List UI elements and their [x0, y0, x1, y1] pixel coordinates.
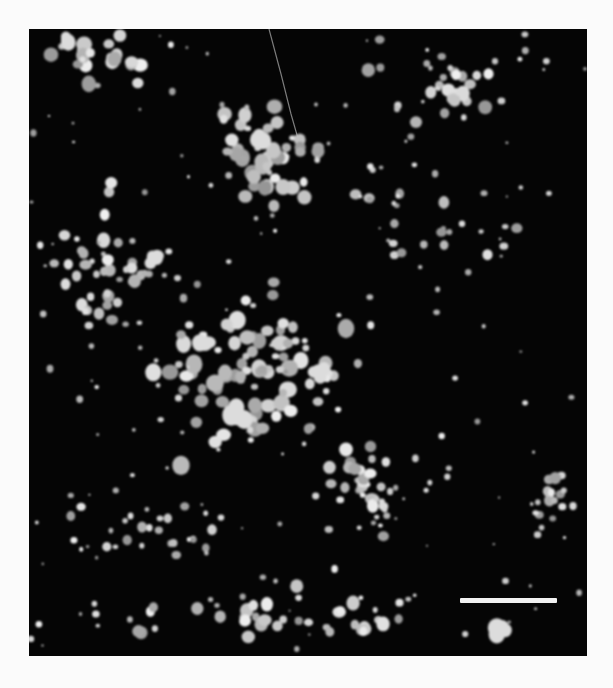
particle [394, 517, 397, 520]
particle [499, 238, 502, 241]
particle [374, 515, 379, 520]
particle [106, 315, 118, 325]
particle [268, 277, 280, 287]
particle [260, 575, 266, 580]
particle [92, 610, 100, 617]
particle [360, 492, 366, 497]
particle [387, 488, 393, 495]
particle [190, 537, 197, 543]
particle [364, 469, 376, 479]
particle [226, 259, 231, 264]
particle [128, 513, 134, 520]
particle [103, 39, 114, 48]
particle [218, 365, 232, 381]
particle [245, 126, 252, 131]
particle [378, 531, 389, 541]
particle [159, 35, 161, 37]
particle [444, 474, 450, 481]
particle [277, 522, 282, 527]
particle [66, 511, 75, 521]
particle [68, 493, 74, 498]
particle [410, 116, 422, 128]
particle [379, 166, 384, 170]
particle [77, 246, 86, 255]
particle [218, 515, 225, 521]
particle [366, 294, 373, 300]
particle [439, 196, 450, 209]
particle [42, 563, 44, 566]
particle [362, 63, 375, 77]
particle [357, 526, 362, 530]
particle [478, 100, 492, 114]
particle [451, 70, 461, 80]
particle [164, 514, 172, 524]
particle [305, 378, 315, 389]
particle [288, 321, 298, 333]
scale-bar [460, 598, 557, 603]
particle [517, 57, 522, 62]
particle [139, 543, 144, 549]
particle [178, 385, 189, 395]
particle [376, 617, 389, 632]
particle [248, 437, 254, 442]
particle [440, 108, 449, 118]
particle [522, 47, 529, 54]
particle [546, 191, 552, 196]
particle [100, 209, 110, 221]
particle [421, 100, 425, 104]
particle [209, 183, 214, 188]
particle [368, 455, 375, 463]
particle [207, 524, 217, 535]
particle [165, 249, 172, 255]
particle [96, 433, 99, 436]
particle [396, 194, 400, 199]
particle [272, 353, 279, 359]
particle [265, 179, 267, 181]
particle [481, 190, 488, 196]
particle [543, 58, 550, 64]
particle [377, 482, 386, 491]
particle [273, 229, 277, 233]
particle [186, 46, 189, 49]
particle [433, 310, 440, 316]
particle [228, 336, 241, 350]
particle [142, 270, 148, 276]
particle [114, 29, 127, 42]
particle [260, 232, 262, 235]
particle [326, 479, 337, 488]
particle [440, 74, 447, 81]
particle [405, 597, 411, 602]
particle [197, 339, 209, 351]
particle [138, 346, 143, 350]
particle [549, 472, 561, 484]
particle [273, 578, 278, 583]
particle [500, 255, 503, 258]
particle [267, 290, 278, 300]
particle [268, 200, 279, 212]
particle [432, 170, 438, 177]
particle [271, 116, 284, 129]
particle [279, 389, 287, 397]
particle [462, 631, 468, 637]
particle [290, 579, 303, 593]
particle [109, 528, 114, 534]
particle [247, 170, 261, 184]
particle [295, 147, 306, 156]
particle [113, 298, 122, 308]
particle [498, 497, 500, 499]
particle [102, 542, 111, 551]
particle [51, 243, 54, 246]
particle [317, 156, 320, 159]
particle [376, 63, 384, 71]
particle [438, 53, 446, 60]
particle [302, 442, 307, 447]
particle [563, 536, 566, 539]
particle [94, 385, 99, 389]
particle [367, 163, 373, 170]
particle [492, 58, 498, 65]
particle [168, 42, 174, 48]
particle [459, 220, 465, 227]
particle [29, 636, 34, 642]
particle [551, 497, 558, 504]
particle [35, 520, 39, 524]
